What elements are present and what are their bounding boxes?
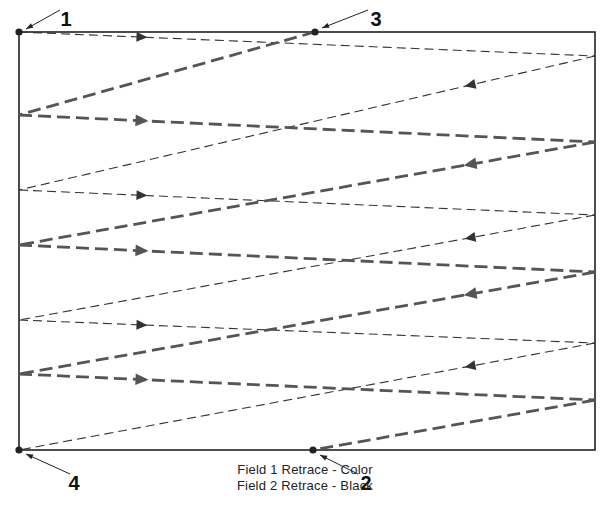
arrow-right-icon [135,115,148,127]
legend-field-1: Field 1 Retrace - Color [0,462,610,478]
field-1-line [313,400,595,450]
leader-arrow-icon [322,23,329,28]
field-1-line [19,32,315,115]
arrow-right-icon [136,32,147,42]
arrow-right-icon [135,245,148,257]
point-1-label: 1 [60,8,71,30]
field-1-line [19,115,595,142]
arrow-left-icon [465,360,477,370]
field-2-line [19,56,595,190]
field-1-line [19,374,595,400]
leader-arrow-icon [320,455,327,460]
arrow-left-icon [465,232,477,242]
arrow-left-icon [464,157,478,169]
field-1-scan-lines [19,32,595,450]
point-3-marker [311,28,318,35]
legend-field-2: Field 2 Retrace - Black [0,478,610,494]
field-1-line [19,245,595,272]
point-4-marker [15,446,22,453]
point-3-label: 3 [370,8,381,30]
leader-arrow-icon [26,23,33,29]
point-2-marker [309,446,316,453]
arrow-left-icon [465,79,477,89]
arrow-right-icon [135,373,148,385]
leader-arrow-icon [26,454,33,459]
arrow-right-icon [136,320,147,330]
point-1-marker [15,28,22,35]
legend-caption: Field 1 Retrace - Color Field 2 Retrace … [0,462,610,494]
point-3-leader [322,10,368,28]
reference-points: 1342 [15,8,381,494]
arrow-right-icon [136,190,147,200]
arrow-left-icon [464,287,478,299]
interlace-scan-diagram: 1342 [0,0,610,514]
